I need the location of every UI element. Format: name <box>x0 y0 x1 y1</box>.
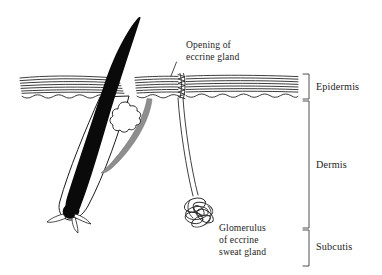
label-opening-line1: Opening of <box>186 39 232 50</box>
skin-cross-section-diagram: Cross-section of human skin showing hair… <box>0 0 382 275</box>
diagram-canvas: Cross-section of human skin showing hair… <box>0 0 382 275</box>
label-glomerulus-line1: Glomerulus <box>219 222 266 233</box>
layer-label-epidermis: Epidermis <box>316 81 359 92</box>
layer-label-subcutis: Subcutis <box>316 241 352 252</box>
layer-label-dermis: Dermis <box>316 159 347 170</box>
label-glomerulus-line3: sweat gland <box>219 246 266 257</box>
label-glomerulus-line2: of eccrine <box>219 234 259 245</box>
label-opening-line2: eccrine gland <box>186 51 239 62</box>
